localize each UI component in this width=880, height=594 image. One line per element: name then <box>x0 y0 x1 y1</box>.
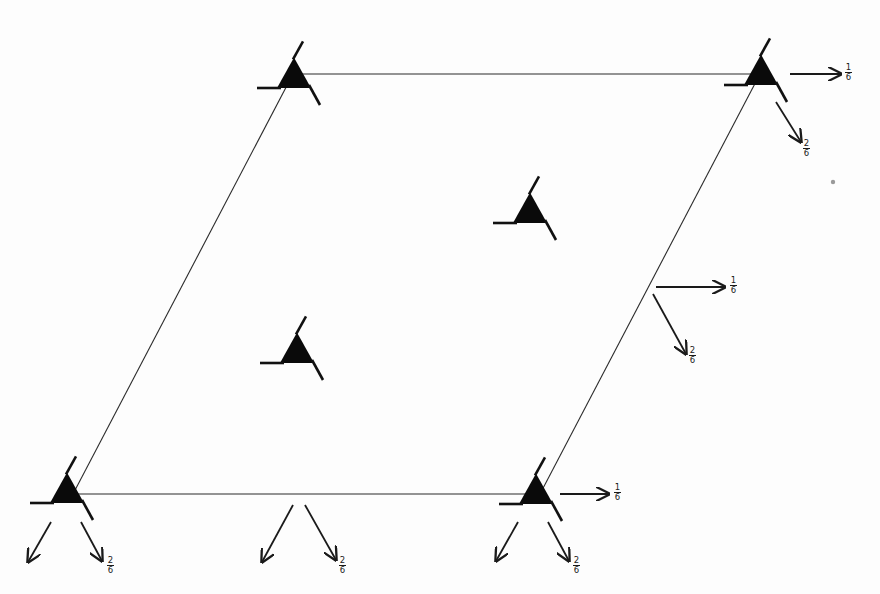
arrow-bl-diagonal <box>81 522 102 561</box>
triangle-icon <box>744 54 778 85</box>
unit-cell-outline <box>73 74 760 494</box>
fraction-numerator: 1 <box>731 276 736 285</box>
diagram-canvas <box>0 0 880 594</box>
screw-axis-symbol-corner-top-right <box>724 38 787 102</box>
screw-axis-symbol-corner-bottom-right <box>499 457 562 521</box>
fraction-numerator: 2 <box>340 556 345 565</box>
stray-marks <box>831 180 835 184</box>
fraction-denominator: 6 <box>846 73 851 82</box>
arrow-bl-down-left <box>28 522 51 562</box>
fraction-label-br-horizontal: 16 <box>614 483 621 502</box>
screw-axis-symbol-corner-bottom-left <box>30 456 93 520</box>
fraction-numerator: 2 <box>804 139 809 148</box>
triangle-icon <box>513 192 547 223</box>
screw-axis-symbol-interior-upper <box>493 176 556 240</box>
symbol-tail-line <box>545 220 556 240</box>
fraction-denominator: 6 <box>340 566 345 575</box>
symbol-apex-line <box>66 456 76 474</box>
translation-arrows <box>28 74 841 562</box>
symbol-tail-line <box>551 501 562 521</box>
arrow-bm-down-left <box>262 505 293 562</box>
fraction-label-mid-horizontal: 16 <box>730 276 737 295</box>
fraction-denominator: 6 <box>615 493 620 502</box>
arrow-bm-diagonal <box>305 505 336 560</box>
symbol-tail-line <box>776 82 787 102</box>
fraction-denominator: 6 <box>804 149 809 158</box>
symbol-tail-line <box>312 360 323 380</box>
fraction-numerator: 2 <box>690 346 695 355</box>
symbol-apex-line <box>535 457 545 475</box>
triangle-icon <box>280 332 314 363</box>
fraction-label-bl-diagonal: 26 <box>107 556 114 575</box>
symbol-tail-line <box>309 85 320 105</box>
screw-axis-symbol-interior-lower <box>260 316 323 380</box>
fraction-label-tr-horizontal: 16 <box>845 63 852 82</box>
cell-edge-left <box>73 74 293 494</box>
screw-axis-symbol-corner-top-left <box>257 41 320 105</box>
fraction-denominator: 6 <box>690 356 695 365</box>
symmetry-diagram: 1626162616262626 <box>0 0 880 594</box>
fraction-label-mid-diagonal: 26 <box>689 346 696 365</box>
arrow-tr-diagonal <box>776 102 801 142</box>
fraction-numerator: 1 <box>615 483 620 492</box>
stray-dot <box>831 180 835 184</box>
symbol-apex-line <box>296 316 306 334</box>
cell-edge-right <box>540 74 760 494</box>
triangle-icon <box>277 57 311 88</box>
fraction-label-tr-diagonal: 26 <box>803 139 810 158</box>
fraction-denominator: 6 <box>574 566 579 575</box>
fraction-denominator: 6 <box>731 286 736 295</box>
symbol-apex-line <box>529 176 539 194</box>
symbol-tail-line <box>82 500 93 520</box>
fraction-label-br-diagonal: 26 <box>573 556 580 575</box>
fraction-numerator: 1 <box>846 63 851 72</box>
symbol-apex-line <box>760 38 770 56</box>
triangle-icon <box>50 472 84 503</box>
fraction-numerator: 2 <box>574 556 579 565</box>
arrow-br-diagonal <box>548 522 569 561</box>
fraction-denominator: 6 <box>108 566 113 575</box>
fraction-numerator: 2 <box>108 556 113 565</box>
symbol-apex-line <box>293 41 303 59</box>
symmetry-symbols <box>30 38 787 521</box>
arrow-br-down-left <box>496 522 518 561</box>
arrow-mid-diagonal <box>653 294 686 354</box>
fraction-label-bm-diagonal: 26 <box>339 556 346 575</box>
